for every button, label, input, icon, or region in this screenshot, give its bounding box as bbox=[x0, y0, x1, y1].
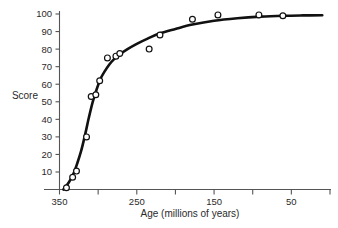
data-point-marker bbox=[84, 134, 90, 140]
data-point-marker bbox=[190, 16, 196, 22]
fitted-curve bbox=[63, 15, 322, 189]
data-point-marker bbox=[97, 78, 103, 84]
x-tick-label: 50 bbox=[286, 196, 297, 207]
y-tick-label: 20 bbox=[41, 149, 52, 160]
y-tick-label: 70 bbox=[41, 61, 52, 72]
y-tick-label: 40 bbox=[41, 114, 52, 125]
data-point-marker bbox=[280, 13, 286, 19]
data-point-marker bbox=[74, 168, 80, 174]
x-tick-label: 350 bbox=[52, 196, 68, 207]
data-point-marker bbox=[93, 92, 99, 98]
y-tick-label: 90 bbox=[41, 26, 52, 37]
y-tick-label: 60 bbox=[41, 79, 52, 90]
data-point-marker bbox=[256, 12, 262, 18]
chart-plot-area: 102030405060708090100 35025015050 Score … bbox=[0, 0, 338, 228]
data-point-marker bbox=[117, 51, 123, 57]
y-tick-label: 50 bbox=[41, 96, 52, 107]
y-tick-label: 30 bbox=[41, 131, 52, 142]
data-point-marker bbox=[105, 55, 111, 61]
data-point-marker bbox=[70, 174, 76, 180]
data-point-marker bbox=[157, 32, 163, 38]
y-tick-label: 10 bbox=[41, 166, 52, 177]
x-axis-title: Age (millions of years) bbox=[141, 208, 240, 219]
x-tick-label: 150 bbox=[206, 196, 222, 207]
data-point-marker bbox=[64, 185, 70, 191]
y-axis-ticks: 102030405060708090100 bbox=[36, 8, 59, 177]
y-tick-label: 80 bbox=[41, 44, 52, 55]
data-point-marker bbox=[146, 46, 152, 52]
axes-group bbox=[44, 11, 331, 190]
y-tick-label: 100 bbox=[36, 8, 52, 19]
x-axis-ticks: 35025015050 bbox=[52, 190, 330, 208]
chart-figure: 102030405060708090100 35025015050 Score … bbox=[0, 0, 338, 228]
data-point-marker bbox=[215, 12, 221, 18]
data-point-markers bbox=[64, 12, 286, 191]
x-tick-label: 250 bbox=[129, 196, 145, 207]
y-axis-title: Score bbox=[12, 90, 39, 101]
